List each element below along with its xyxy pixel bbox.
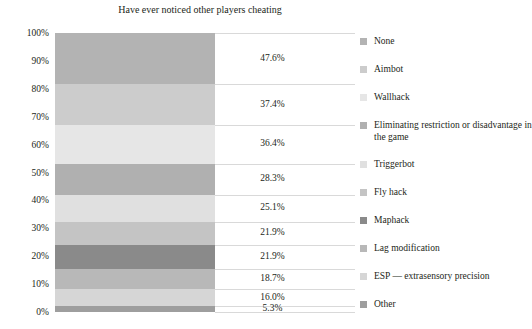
bar-segment (55, 269, 215, 290)
legend-item-label: Maphack (374, 215, 409, 227)
y-axis-tick-label: 30% (0, 223, 49, 233)
legend-swatch-icon (360, 189, 367, 196)
y-axis-tick-label: 10% (0, 279, 49, 289)
data-label: 5.3% (215, 303, 330, 314)
legend-item-label: None (374, 36, 395, 48)
bar-segment (55, 84, 215, 125)
y-axis-tick-label: 20% (0, 251, 49, 261)
legend-item-label: ESP — extrasensory precision (374, 271, 489, 283)
legend-item[interactable]: Other (360, 299, 532, 311)
legend-swatch-icon (360, 217, 367, 224)
legend-item[interactable]: Maphack (360, 215, 532, 227)
legend-item-label: Aimbot (374, 64, 403, 76)
legend-item[interactable]: Eliminating restriction or disadvantage … (360, 120, 532, 143)
y-axis-tick-label: 70% (0, 112, 49, 122)
legend-swatch-icon (360, 122, 367, 129)
data-label: 21.9% (215, 251, 330, 262)
data-label: 18.7% (215, 273, 330, 284)
bar-segment (55, 289, 215, 307)
y-axis-tick-label: 80% (0, 84, 49, 94)
legend-item-label: Triggerbot (374, 159, 414, 171)
y-axis-tick-label: 90% (0, 56, 49, 66)
legend-item[interactable]: ESP — extrasensory precision (360, 271, 532, 283)
chart-figure: Have ever noticed other players cheating… (0, 0, 532, 329)
data-label: 36.4% (215, 138, 330, 149)
legend-item-label: Other (374, 299, 396, 311)
legend-swatch-icon (360, 94, 367, 101)
legend-item[interactable]: None (360, 36, 532, 48)
legend-swatch-icon (360, 245, 367, 252)
bar-segment (55, 33, 215, 85)
bar-segment (55, 306, 215, 312)
legend-item[interactable]: Fly hack (360, 187, 532, 199)
legend-item[interactable]: Wallhack (360, 92, 532, 104)
y-axis: 100%90%80%70%60%50%40%30%20%10%0% (0, 33, 49, 312)
stacked-bar (55, 33, 215, 312)
bar-segment (55, 164, 215, 195)
legend-item-label: Lag modification (374, 243, 440, 255)
bar-segment (55, 125, 215, 165)
chart-legend: NoneAimbotWallhackEliminating restrictio… (360, 36, 532, 316)
legend-swatch-icon (360, 38, 367, 45)
y-axis-tick-label: 0% (0, 307, 49, 317)
data-label: 16.0% (215, 292, 330, 303)
legend-item[interactable]: Lag modification (360, 243, 532, 255)
data-label: 21.9% (215, 227, 330, 238)
legend-item-label: Eliminating restriction or disadvantage … (374, 120, 532, 143)
legend-item-label: Wallhack (374, 92, 410, 104)
data-label-group: 47.6%37.4%36.4%28.3%25.1%21.9%21.9%18.7%… (215, 33, 355, 312)
data-label: 28.3% (215, 173, 330, 184)
legend-item[interactable]: Aimbot (360, 64, 532, 76)
y-axis-tick-label: 40% (0, 195, 49, 205)
bar-segment (55, 222, 215, 246)
legend-item-label: Fly hack (374, 187, 407, 199)
data-label: 25.1% (215, 202, 330, 213)
legend-swatch-icon (360, 161, 367, 168)
y-axis-tick-label: 100% (0, 28, 49, 38)
bar-segment (55, 195, 215, 223)
data-label: 47.6% (215, 53, 330, 64)
y-axis-tick-label: 60% (0, 140, 49, 150)
y-axis-tick-label: 50% (0, 168, 49, 178)
bar-segment (55, 245, 215, 269)
legend-swatch-icon (360, 273, 367, 280)
data-label: 37.4% (215, 99, 330, 110)
legend-swatch-icon (360, 301, 367, 308)
legend-item[interactable]: Triggerbot (360, 159, 532, 171)
legend-swatch-icon (360, 66, 367, 73)
chart-title: Have ever noticed other players cheating (55, 4, 345, 16)
